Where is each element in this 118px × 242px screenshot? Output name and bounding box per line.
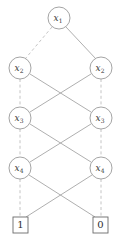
node-subscript-n2R: 2 (101, 66, 105, 73)
terminal-label-t1: 1 (17, 219, 23, 230)
edge-n1-to-n2L-dashed (25, 27, 52, 59)
bdd-node-n2R[interactable]: x2 (90, 57, 112, 79)
bdd-node-n1[interactable]: x1 (48, 7, 70, 29)
node-subscript-n4L: 4 (20, 166, 24, 173)
bdd-diagram-canvas: x1x2x2x3x3x4x4 10 (0, 0, 118, 242)
edges-layer (20, 27, 101, 217)
node-subscript-n2L: 2 (20, 66, 24, 73)
bdd-graph: x1x2x2x3x3x4x4 10 (0, 0, 118, 242)
bdd-terminal-t0[interactable]: 0 (93, 217, 108, 233)
bdd-node-n4R[interactable]: x4 (90, 157, 112, 179)
bdd-node-n3R[interactable]: x3 (90, 107, 112, 129)
bdd-node-n3L[interactable]: x3 (9, 107, 31, 129)
bdd-node-n2L[interactable]: x2 (9, 57, 31, 79)
terminals-layer: 10 (13, 217, 108, 233)
edge-n4R-to-t1-solid (26, 175, 92, 217)
node-subscript-n3L: 3 (20, 116, 24, 123)
edge-n1-to-n2R-solid (66, 27, 96, 59)
node-subscript-n4R: 4 (101, 166, 105, 173)
bdd-node-n4L[interactable]: x4 (9, 157, 31, 179)
edge-n4L-to-t0-solid (29, 175, 95, 217)
node-subscript-n3R: 3 (101, 116, 105, 123)
terminal-label-t0: 0 (97, 219, 103, 230)
node-subscript-n1: 1 (59, 16, 63, 23)
bdd-terminal-t1[interactable]: 1 (13, 217, 28, 233)
